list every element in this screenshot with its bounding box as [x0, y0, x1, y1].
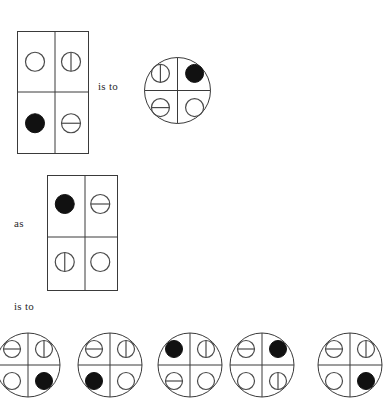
glyph-empty-bottom-right [186, 99, 204, 117]
glyph-horizontal-D-top-left [238, 341, 255, 358]
analogy-puzzle-canvas: is to as is to [0, 0, 387, 398]
connector-label-is-to-1: is to [98, 80, 118, 92]
stimulus-c-cells [55, 195, 110, 272]
glyph-vertical-top-right [62, 52, 81, 71]
glyph-filled-top-right [186, 64, 204, 82]
ring-icon [4, 373, 21, 390]
glyph-horizontal-bottom-right [62, 114, 81, 133]
answer-options-row [0, 333, 387, 398]
glyph-empty-top-left [26, 52, 45, 71]
glyph-horizontal-C-bottom-left [166, 373, 183, 390]
filled-circle-icon [55, 195, 74, 214]
ring-icon [91, 253, 110, 272]
option-c[interactable] [158, 333, 222, 397]
connector-label-is-to-2: is to [14, 300, 34, 312]
glyph-horizontal-B-top-left [86, 341, 103, 358]
option-e[interactable] [318, 333, 382, 397]
ring-icon [198, 373, 215, 390]
glyph-filled-A-bottom-right [36, 373, 53, 390]
stimulus-b-circle [144, 57, 211, 124]
glyph-vertical-top-left [151, 64, 169, 82]
glyph-filled-B-bottom-left [86, 373, 103, 390]
ring-icon [186, 99, 204, 117]
option-b[interactable] [78, 333, 142, 397]
glyph-empty-D-bottom-left [238, 373, 255, 390]
filled-circle-icon [270, 341, 287, 358]
glyph-vertical-A-top-right [36, 341, 53, 358]
answer-options-svg [0, 333, 387, 398]
stimulus-a-frame [18, 32, 89, 154]
ring-icon [26, 52, 45, 71]
filled-circle-icon [166, 341, 183, 358]
glyph-empty-bottom-right [91, 253, 110, 272]
filled-circle-icon [186, 64, 204, 82]
glyph-horizontal-top-right [91, 195, 110, 214]
ring-icon [118, 373, 135, 390]
stimulus-c-frame [48, 176, 118, 291]
stimulus-a-rectangle [17, 31, 89, 154]
connector-label-as: as [14, 217, 24, 229]
glyph-empty-A-bottom-left [4, 373, 21, 390]
stimulus-a-svg [17, 31, 89, 154]
glyph-empty-E-bottom-left [326, 373, 343, 390]
filled-circle-icon [86, 373, 103, 390]
option-a[interactable] [0, 333, 60, 397]
glyph-filled-E-bottom-right [358, 373, 375, 390]
stimulus-b-svg [144, 57, 211, 124]
glyph-filled-C-top-left [166, 341, 183, 358]
filled-circle-icon [36, 373, 53, 390]
ring-icon [326, 373, 343, 390]
glyph-horizontal-bottom-left [151, 99, 169, 117]
glyph-filled-top-left [55, 195, 74, 214]
glyph-empty-B-bottom-right [118, 373, 135, 390]
glyph-filled-bottom-left [26, 114, 45, 133]
glyph-horizontal-A-top-left [4, 341, 21, 358]
glyph-vertical-C-top-right [198, 341, 215, 358]
filled-circle-icon [26, 114, 45, 133]
glyph-horizontal-E-top-left [326, 341, 343, 358]
option-d[interactable] [230, 333, 294, 397]
stimulus-c-rectangle [47, 175, 118, 291]
glyph-empty-C-bottom-right [198, 373, 215, 390]
glyph-vertical-B-top-right [118, 341, 135, 358]
filled-circle-icon [358, 373, 375, 390]
glyph-vertical-bottom-left [55, 253, 74, 272]
glyph-vertical-E-top-right [358, 341, 375, 358]
ring-icon [238, 373, 255, 390]
glyph-filled-D-top-right [270, 341, 287, 358]
stimulus-c-svg [47, 175, 118, 291]
glyph-vertical-D-bottom-right [270, 373, 287, 390]
